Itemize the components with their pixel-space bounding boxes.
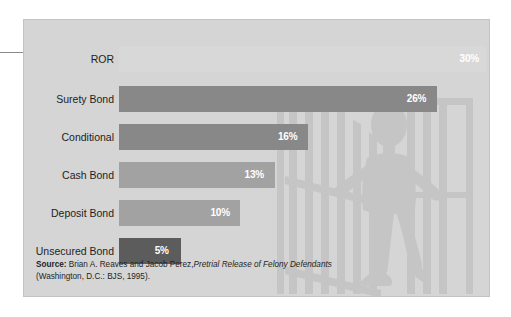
bar-row: ROR 30% xyxy=(24,46,489,72)
bar-track: 10% xyxy=(119,200,486,226)
bar-track: 26% xyxy=(119,86,486,112)
source-publication: (Washington, D.C.: BJS, 1995). xyxy=(36,272,150,281)
bar-category-label: Conditional xyxy=(24,124,114,150)
bar-value-label: 13% xyxy=(245,162,264,188)
bar-track: 16% xyxy=(119,124,486,150)
left-edge-rule xyxy=(0,52,24,53)
bar-value-label: 30% xyxy=(460,46,479,72)
bar-value-label: 26% xyxy=(407,86,426,112)
bar-row: Deposit Bond 10% xyxy=(24,200,489,226)
source-label: Source: xyxy=(36,260,66,269)
bar-row: Cash Bond 13% xyxy=(24,162,489,188)
bar-chart-figure-card: ROR 30% Surety Bond 26% Conditional 16% … xyxy=(23,19,490,297)
bar-category-label: ROR xyxy=(24,46,114,72)
source-title: Pretrial Release of Felony Defendants xyxy=(193,260,331,269)
bar-fill xyxy=(119,86,437,112)
bar-track: 13% xyxy=(119,162,486,188)
source-authors: Brian A. Reaves and Jacob Perez, xyxy=(66,260,193,269)
bar-value-label: 16% xyxy=(278,124,297,150)
source-citation: Source: Brian A. Reaves and Jacob Perez,… xyxy=(36,259,336,282)
bar-row: Conditional 16% xyxy=(24,124,489,150)
bar-row: Surety Bond 26% xyxy=(24,86,489,112)
bar-fill xyxy=(119,46,486,72)
bar-category-label: Surety Bond xyxy=(24,86,114,112)
bar-category-label: Cash Bond xyxy=(24,162,114,188)
bar-category-label: Deposit Bond xyxy=(24,200,114,226)
bar-value-label: 10% xyxy=(210,200,229,226)
bar-chart-plot-area: ROR 30% Surety Bond 26% Conditional 16% … xyxy=(24,20,489,296)
bar-track: 30% xyxy=(119,46,486,72)
